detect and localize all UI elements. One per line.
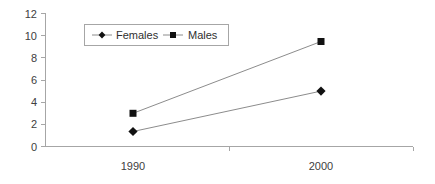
y-axis-label-8: 8 xyxy=(31,52,37,64)
data-point-females-1990 xyxy=(128,127,137,136)
y-axis-label-10: 10 xyxy=(25,30,37,42)
y-axis-label-0: 0 xyxy=(31,141,37,153)
chart-screenshot: 12 10 8 6 4 2 0 1990 2000 Females M xyxy=(0,0,435,184)
line-chart: 12 10 8 6 4 2 0 1990 2000 Females M xyxy=(0,0,435,184)
chart-legend: Females Males xyxy=(85,25,229,46)
y-axis-label-4: 4 xyxy=(31,96,37,108)
x-axis-label-1990: 1990 xyxy=(121,160,145,172)
x-axis-label-2000: 2000 xyxy=(309,160,333,172)
series-line-females xyxy=(133,91,321,131)
y-axis-label-12: 12 xyxy=(25,8,37,20)
data-point-males-2000 xyxy=(318,38,325,45)
legend-label-females: Females xyxy=(116,29,159,41)
data-point-males-1990 xyxy=(130,110,137,117)
y-axis-label-6: 6 xyxy=(31,74,37,86)
data-point-females-2000 xyxy=(316,87,325,96)
y-axis-label-2: 2 xyxy=(31,118,37,130)
square-marker-icon xyxy=(170,32,176,38)
legend-label-males: Males xyxy=(188,29,218,41)
series-line-males xyxy=(133,42,321,114)
